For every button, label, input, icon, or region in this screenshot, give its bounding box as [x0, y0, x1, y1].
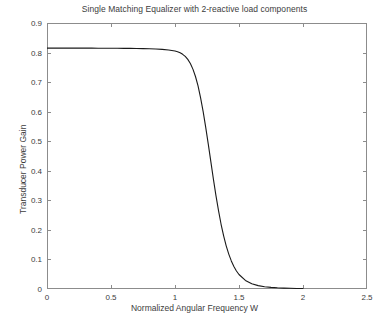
y-tick-label: 0.9 — [0, 19, 42, 28]
x-tick-label: 1 — [173, 293, 177, 302]
x-tick-label: 2 — [301, 293, 305, 302]
x-tick-label: 0.5 — [105, 293, 116, 302]
y-tick-label: 0 — [0, 285, 42, 294]
y-tick-label: 0.7 — [0, 78, 42, 87]
plot-svg — [47, 23, 367, 289]
chart-figure: Single Matching Equalizer with 2-reactiv… — [0, 0, 389, 326]
chart-title: Single Matching Equalizer with 2-reactiv… — [0, 4, 389, 14]
x-tick-label: 2.5 — [361, 293, 372, 302]
y-tick-label: 0.8 — [0, 48, 42, 57]
plot-area — [47, 23, 367, 289]
plot-background — [47, 23, 367, 289]
y-tick-label: 0.2 — [0, 225, 42, 234]
x-tick-label: 0 — [45, 293, 49, 302]
x-axis-label: Normalized Angular Frequency W — [0, 303, 389, 313]
y-axis-label: Transducer Power Gain — [18, 125, 28, 214]
y-tick-label: 0.1 — [0, 255, 42, 264]
y-tick-label: 0.6 — [0, 107, 42, 116]
x-tick-label: 1.5 — [233, 293, 244, 302]
